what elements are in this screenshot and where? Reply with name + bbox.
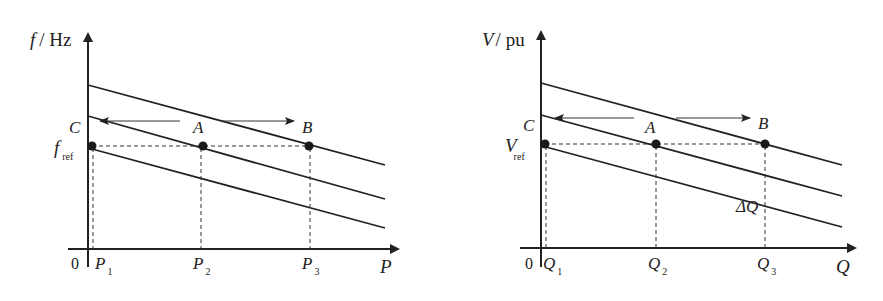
x-axis-label: P [379,256,392,277]
operating-point-a [652,140,661,149]
label-a: A [192,118,204,137]
droop-line-lower [546,147,842,227]
v-ref-label: Vref [505,135,525,162]
tick-q2: Q2 [648,254,667,277]
tick-q1: Q1 [543,254,562,277]
f-ref-label: fref [54,137,74,162]
operating-point-a [199,142,208,151]
y-axis-label: f/ Hz [30,29,71,50]
origin-label: 0 [71,255,79,272]
delta-q-label: ΔQ [735,197,758,216]
tick-p1: P1 [94,254,112,277]
label-c: C [69,118,81,137]
label-c: C [523,116,535,135]
x-axis-label: Q [836,256,850,277]
droop-diagrams: f/ Hz C A B fref 0 P1 P2 P3 P V/ pu C A … [0,0,883,301]
operating-point-b [305,142,314,151]
operating-point-c [541,140,550,149]
droop-line-lower [92,149,385,228]
label-b: B [302,118,313,137]
y-axis-label: V/ pu [482,29,525,50]
tick-q3: Q3 [757,254,776,277]
origin-label: 0 [525,255,533,272]
operating-point-c [88,142,97,151]
label-a: A [644,118,656,137]
tick-p2: P2 [192,254,210,277]
tick-p3: P3 [301,254,319,277]
frequency-droop-panel: f/ Hz C A B fref 0 P1 P2 P3 P [30,29,398,277]
droop-line-upper [88,85,385,165]
droop-line-middle [541,115,842,196]
droop-line-middle [88,116,385,199]
operating-point-b [761,140,770,149]
voltage-droop-panel: V/ pu C A B Vref ΔQ 0 Q1 Q2 Q3 Q [482,29,855,277]
droop-line-upper [541,83,842,165]
label-b: B [758,114,769,133]
